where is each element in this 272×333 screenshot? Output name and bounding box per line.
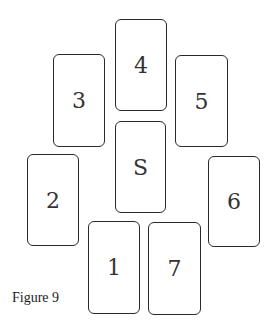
card-label: 2 xyxy=(46,188,60,213)
card-position-2: 2 xyxy=(27,154,79,246)
card-position-1: 1 xyxy=(88,221,140,314)
card-position-5: 5 xyxy=(175,55,228,147)
card-label: 5 xyxy=(195,89,209,114)
card-label: 3 xyxy=(72,88,86,113)
card-label: 1 xyxy=(107,255,121,280)
card-position-7: 7 xyxy=(148,222,201,315)
card-position-6: 6 xyxy=(208,156,260,247)
card-position-4: 4 xyxy=(115,19,167,111)
card-label: S xyxy=(133,155,148,180)
card-label: 6 xyxy=(227,189,241,214)
card-position-3: 3 xyxy=(53,54,105,147)
card-label: 7 xyxy=(168,256,182,281)
card-label: 4 xyxy=(134,53,148,78)
figure-caption: Figure 9 xyxy=(12,290,59,306)
card-position-s: S xyxy=(115,121,166,213)
